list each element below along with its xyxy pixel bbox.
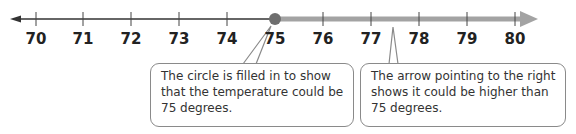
tick-label: 74 xyxy=(207,30,247,48)
tick-label: 73 xyxy=(159,30,199,48)
tick-label: 79 xyxy=(447,30,487,48)
tick-label: 72 xyxy=(111,30,151,48)
tick-label: 70 xyxy=(16,30,56,48)
tick-label: 78 xyxy=(399,30,439,48)
tick-label: 75 xyxy=(255,30,295,48)
tick-label: 77 xyxy=(351,30,391,48)
callout-closed-circle: The circle is filled in to show that the… xyxy=(150,63,354,127)
closed-circle-icon xyxy=(269,13,281,25)
left-arrow-icon xyxy=(10,16,21,23)
tick-label: 71 xyxy=(63,30,103,48)
callout-arrow-right: The arrow pointing to the right shows it… xyxy=(360,63,566,127)
tick-label: 80 xyxy=(495,30,535,48)
tick-label: 76 xyxy=(303,30,343,48)
right-arrow-icon xyxy=(520,11,538,27)
